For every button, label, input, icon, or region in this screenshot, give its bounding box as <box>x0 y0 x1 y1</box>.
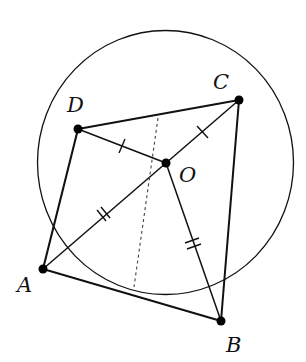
tick-mark-od <box>119 139 125 153</box>
label-a: A <box>15 273 32 297</box>
label-o: O <box>179 163 196 187</box>
point-a <box>39 265 48 274</box>
point-d <box>74 125 83 134</box>
double-tick-mark-oa <box>97 207 110 221</box>
label-d: D <box>66 93 84 117</box>
point-c <box>235 96 244 105</box>
side-ab <box>43 269 221 321</box>
segment-oa <box>43 163 166 269</box>
side-da <box>43 129 78 269</box>
diagram-canvas: A B C D O <box>0 0 306 362</box>
side-cd <box>78 100 239 129</box>
geometry-figure: A B C D O <box>0 0 306 362</box>
side-bc <box>221 100 239 321</box>
dashed-line <box>134 118 158 287</box>
label-c: C <box>213 70 229 94</box>
point-b <box>217 317 226 326</box>
label-b: B <box>225 333 241 357</box>
double-tick-mark-ob <box>185 238 201 249</box>
point-o <box>162 159 171 168</box>
